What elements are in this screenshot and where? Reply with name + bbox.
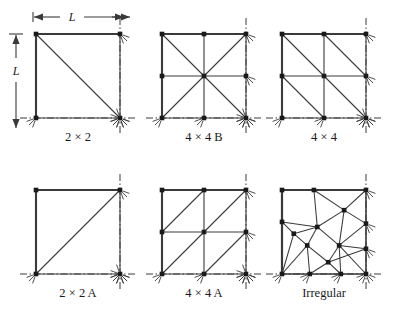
mesh-edge [344,210,366,223]
mesh-edge [122,36,127,41]
mesh-edge [331,275,338,277]
mesh-edge [249,35,256,37]
mesh-edge [368,251,373,256]
mesh-node [160,116,165,121]
mesh-edge [357,275,364,277]
mesh-edge [368,36,373,41]
mesh-edge [307,245,328,262]
mesh-node [160,272,165,277]
dimension-label-horizontal: L [68,10,76,24]
mesh-edge [237,275,244,277]
mesh-edge [317,120,322,125]
mesh-edge [369,275,376,277]
mesh-node [202,74,207,79]
mesh-edge [369,119,376,121]
panel-mesh-2x2-a [20,174,136,290]
mesh-edge [122,120,127,125]
mesh-edge [369,225,376,227]
dimension-label-vertical: L [12,64,20,78]
mesh-edge [117,277,119,284]
mesh-edge [248,36,253,41]
mesh-edge [328,245,339,262]
mesh-edge [367,226,369,233]
mesh-edge [247,121,249,128]
mesh-edge [337,277,339,284]
mesh-edge [204,232,246,274]
mesh-node [244,188,249,193]
mesh-edge [282,222,317,227]
mesh-edge [33,277,35,284]
mesh-edge [153,275,160,277]
mesh-node [280,188,285,193]
mesh-edge [324,76,366,118]
mesh-edge [159,277,161,284]
mesh-edge [307,245,310,274]
mesh-node [364,272,369,277]
mesh-edge [111,271,118,273]
mesh-edge [123,119,130,121]
mesh-edge [121,193,123,200]
mesh-edge [310,262,328,274]
panel-caption: Irregular [302,286,347,300]
panel-caption: 4 × 4 A [185,286,222,300]
mesh-node [280,32,285,37]
mesh-edge [367,79,369,86]
mesh-node [244,74,249,79]
mesh-edge [314,190,317,227]
dimension-vertical: L [9,34,23,128]
mesh-edge [369,250,376,252]
mesh-edge [155,276,160,281]
mesh-node [307,272,312,277]
mesh-node [364,221,369,226]
mesh-edge [201,121,203,128]
mesh-node [202,272,207,277]
panel-caption: 4 × 4 B [185,130,222,144]
mesh-node [244,230,249,235]
mesh-edge [339,210,344,245]
mesh-edge [328,249,366,262]
mesh-edge [113,120,118,125]
mesh-edge [249,275,256,277]
mesh-edge [204,34,246,76]
mesh-node [280,272,285,277]
mesh-edge [195,275,202,277]
mesh-edge [306,277,308,284]
mesh-edge [121,37,123,44]
mesh-node [244,272,249,277]
mesh-node [322,32,327,37]
mesh-edge [249,77,256,79]
mesh-edge [363,277,365,284]
panel-mesh-irregular [266,174,382,290]
mesh-edge [247,37,249,44]
mesh-edge [117,265,119,272]
mesh-edge [334,276,339,281]
mesh-node [322,116,327,121]
mesh-edge [369,191,376,193]
mesh-edge [339,245,341,274]
mesh-edge [321,121,323,128]
mesh-edge [368,276,373,281]
mesh-node [202,116,207,121]
mesh-edge [344,190,366,210]
mesh-edge [155,120,160,125]
mesh-edge [204,76,246,118]
mesh-edge [239,120,244,125]
mesh-edge [248,78,253,83]
mesh-edge [121,121,123,128]
mesh-edge [282,76,324,118]
dimension-horizontal: L [33,10,130,24]
mesh-edge [162,190,204,232]
mesh-edge [204,190,246,232]
mesh-edge [314,190,344,210]
mesh-node [312,188,317,193]
mesh-node [118,188,123,193]
mesh-node [202,188,207,193]
mesh-edge [123,191,130,193]
mesh-edge [279,121,281,128]
mesh-edge [248,192,253,197]
mesh-node [364,116,369,121]
mesh-edge [27,275,34,277]
mesh-edge [197,120,202,125]
mesh-node [34,32,39,37]
mesh-edge [162,34,204,76]
